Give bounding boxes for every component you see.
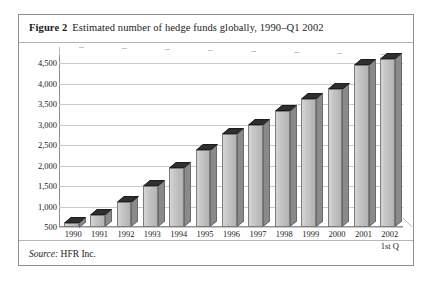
bar-front-face <box>328 89 343 227</box>
y-axis-tick-label: 3,000 <box>21 120 57 130</box>
y-axis-tick-label: 2,500 <box>21 140 57 150</box>
bar-1991 <box>90 215 105 227</box>
x-axis-tick-label: 1991 <box>86 229 114 239</box>
x-axis-tick-label: 1996 <box>218 229 246 239</box>
source-label: Source: <box>29 249 58 259</box>
x-axis-tick-label: 1997 <box>244 229 272 239</box>
x-axis-tick-label: 1995 <box>191 229 219 239</box>
y-axis-tick-label: 1,500 <box>21 181 57 191</box>
caption-divider <box>19 42 413 43</box>
bar-front-face <box>117 202 132 227</box>
bar-2000 <box>328 89 343 227</box>
bar-1994 <box>169 168 184 227</box>
figure-caption-text: Estimated number of hedge funds globally… <box>72 22 323 33</box>
bar-front-face <box>380 59 395 227</box>
bar-front-face <box>301 99 316 227</box>
bar-series <box>60 55 403 227</box>
bar-front-face <box>275 111 290 227</box>
figure-caption: Figure 2Estimated number of hedge funds … <box>29 22 324 33</box>
bar-front-face <box>354 65 369 227</box>
bar-1990 <box>64 223 79 228</box>
y-axis-tick-label: 1,000 <box>21 202 57 212</box>
bar-1992 <box>117 202 132 227</box>
y-axis-tick-label: 500 <box>21 222 57 232</box>
bar-1996 <box>222 134 237 227</box>
source-note: Source: HFR Inc. <box>29 249 96 259</box>
y-axis-tick-label: 3,500 <box>21 99 57 109</box>
bar-side-face <box>395 53 402 227</box>
x-axis-tick-label: 1992 <box>112 229 140 239</box>
y-axis-tick-label: 4,000 <box>21 79 57 89</box>
bar-side-face <box>210 144 217 227</box>
x-axis: 1990199119921993199419951996199719981999… <box>59 229 411 259</box>
x-axis-tick-label: 1994 <box>165 229 193 239</box>
bar-2001 <box>354 65 369 227</box>
x-axis-tick-label: 1999 <box>297 229 325 239</box>
x-axis-tick-label: 1998 <box>270 229 298 239</box>
bar-side-face <box>316 94 323 227</box>
x-axis-tick-sublabel: 1st Q <box>376 241 404 251</box>
bar-front-face <box>196 150 211 227</box>
bar-side-face <box>158 180 165 227</box>
source-divider <box>19 240 413 241</box>
bar-1999 <box>301 99 316 227</box>
figure-panel: Figure 2Estimated number of hedge funds … <box>18 14 414 266</box>
x-axis-tick-label: 1990 <box>59 229 87 239</box>
plot-area <box>59 55 403 227</box>
bar-front-face <box>169 168 184 227</box>
y-axis: 5001,0001,5002,0002,5003,0003,5004,0004,… <box>19 55 57 227</box>
figure-number: Figure 2 <box>29 22 67 33</box>
bar-front-face <box>143 186 158 227</box>
bar-side-face <box>290 105 297 227</box>
source-value: HFR Inc. <box>61 249 96 259</box>
bar-1997 <box>248 125 263 227</box>
bar-side-face <box>237 128 244 227</box>
bar-front-face <box>64 223 79 228</box>
x-axis-tick-label: 2001 <box>349 229 377 239</box>
bar-1998 <box>275 111 290 227</box>
gridline <box>59 227 403 228</box>
bar-side-face <box>184 162 191 227</box>
bar-front-face <box>248 125 263 227</box>
bar-side-face <box>369 59 376 227</box>
y-axis-tick-label: 2,000 <box>21 161 57 171</box>
bar-side-face <box>263 119 270 227</box>
bar-1995 <box>196 150 211 227</box>
bar-2002 <box>380 59 395 227</box>
x-axis-tick-label: 1993 <box>138 229 166 239</box>
bar-front-face <box>90 215 105 227</box>
x-axis-tick-label: 2000 <box>323 229 351 239</box>
bar-side-face <box>342 83 349 227</box>
bar-1993 <box>143 186 158 227</box>
chart-depth-top <box>59 47 404 55</box>
bar-front-face <box>222 134 237 227</box>
y-axis-tick-label: 4,500 <box>21 58 57 68</box>
chart-depth-right <box>403 218 412 227</box>
